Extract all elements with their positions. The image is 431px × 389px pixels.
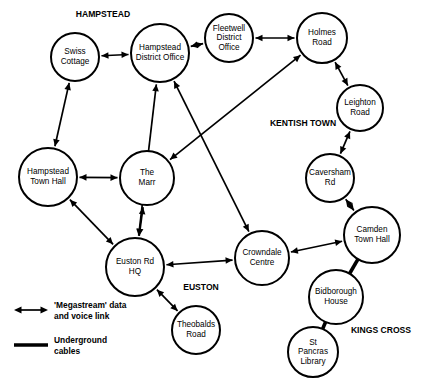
node-label: Office <box>218 43 240 52</box>
link-hampstead_district_office-to-fleetwell_district_office <box>191 42 203 49</box>
node-label: Marr <box>139 178 156 187</box>
legend-label: and voice link <box>54 311 110 321</box>
link-euston_rd_hq-to-crowndale_centre <box>166 257 232 267</box>
node-label: House <box>324 297 348 306</box>
node-label: Euston Rd <box>116 257 155 266</box>
link-hampstead_town_hall-to-euston_rd_hq <box>70 200 113 245</box>
node-label: Road <box>186 330 206 339</box>
node-st_pancras_library[interactable]: StPancrasLibrary <box>288 327 338 377</box>
area-label-kentish_town: KENTISH TOWN <box>270 118 336 128</box>
node-leighton_road[interactable]: LeightonRoad <box>337 85 383 131</box>
link-swiss_cottage-to-hampstead_town_hall <box>53 83 71 146</box>
legend-label: 'Megastream' data <box>54 300 127 310</box>
node-swiss_cottage[interactable]: SwissCottage <box>51 33 99 81</box>
node-label: Caversham <box>309 168 351 177</box>
node-theobalds_road[interactable]: TheobaldsRoad <box>172 306 220 354</box>
node-holmes_road[interactable]: HolmesRoad <box>297 13 347 63</box>
link-leighton_road-to-caversham_rd <box>340 131 350 153</box>
node-label: Town Hall <box>354 235 390 244</box>
node-crowndale_centre[interactable]: CrowndaleCentre <box>235 231 289 285</box>
node-euston_rd_hq[interactable]: Euston RdHQ <box>106 238 164 296</box>
node-label: St <box>309 338 317 347</box>
link-swiss_cottage-to-hampstead_district_office <box>101 52 128 59</box>
node-label: Bidborough <box>315 287 357 296</box>
node-label: The <box>140 168 155 177</box>
node-label: Leighton <box>344 98 376 107</box>
link-hampstead_town_hall-to-the_marr <box>79 174 117 181</box>
node-label: Fleetwell <box>213 24 245 33</box>
legend-layer: 'Megastream' dataand voice linkUndergrou… <box>14 300 127 356</box>
link-camden_town_hall-to-bidborough_house <box>349 258 358 274</box>
node-hampstead_district_office[interactable]: HampsteadDistrict Office <box>131 24 189 82</box>
node-label: Road <box>350 108 370 117</box>
area-label-euston: EUSTON <box>183 282 219 292</box>
node-label: Swiss <box>64 47 85 56</box>
node-camden_town_hall[interactable]: CamdenTown Hall <box>344 207 400 263</box>
node-label: Holmes <box>308 28 336 37</box>
legend-item-megastream: 'Megastream' dataand voice link <box>14 300 127 321</box>
legend-item-underground: Undergroundcables <box>14 335 107 356</box>
node-hampstead_town_hall[interactable]: HampsteadTown Hall <box>19 148 77 206</box>
link-camden_town_hall-to-crowndale_centre <box>291 239 342 253</box>
node-label: District <box>216 33 242 42</box>
legend-label: Underground <box>54 335 107 345</box>
area-label-hampstead: HAMPSTEAD <box>76 9 130 19</box>
node-fleetwell_district_office[interactable]: FleetwellDistrictOffice <box>205 14 253 62</box>
node-label: Library <box>300 357 326 366</box>
node-label: Hampstead <box>27 167 69 176</box>
link-caversham_rd-to-camden_town_hall <box>346 199 354 210</box>
node-label: Hampstead <box>139 43 181 52</box>
link-holmes_road-to-leighton_road <box>335 62 348 85</box>
double-arrow-icon <box>14 306 48 313</box>
link-fleetwell_district_office-to-holmes_road <box>256 35 295 42</box>
network-diagram: SwissCottageHampsteadDistrict OfficeFlee… <box>0 0 431 389</box>
node-the_marr[interactable]: TheMarr <box>120 151 174 205</box>
link-euston_rd_hq-to-theobalds_road <box>157 290 178 311</box>
node-label: Cottage <box>61 57 90 66</box>
node-label: Rd <box>325 178 336 187</box>
area-label-kings_cross: KINGS CROSS <box>351 325 411 335</box>
node-label: District Office <box>136 53 185 62</box>
legend-label: cables <box>54 346 80 356</box>
node-label: Camden <box>357 225 388 234</box>
link-the_marr-to-holmes_road <box>170 55 300 159</box>
node-label: HQ <box>129 267 141 276</box>
node-label: Centre <box>250 258 275 267</box>
node-label: Crowndale <box>242 248 282 257</box>
node-label: Town Hall <box>30 177 66 186</box>
node-label: Theobalds <box>177 320 215 329</box>
node-caversham_rd[interactable]: CavershamRd <box>306 154 354 202</box>
node-label: Road <box>312 38 332 47</box>
link-hampstead_district_office-to-crowndale_centre <box>174 81 249 231</box>
network-diagram-canvas: SwissCottageHampsteadDistrict OfficeFlee… <box>0 0 431 389</box>
node-bidborough_house[interactable]: BidboroughHouse <box>309 270 363 324</box>
node-label: Pancras <box>298 347 328 356</box>
nodes-layer: SwissCottageHampsteadDistrict OfficeFlee… <box>19 13 400 377</box>
